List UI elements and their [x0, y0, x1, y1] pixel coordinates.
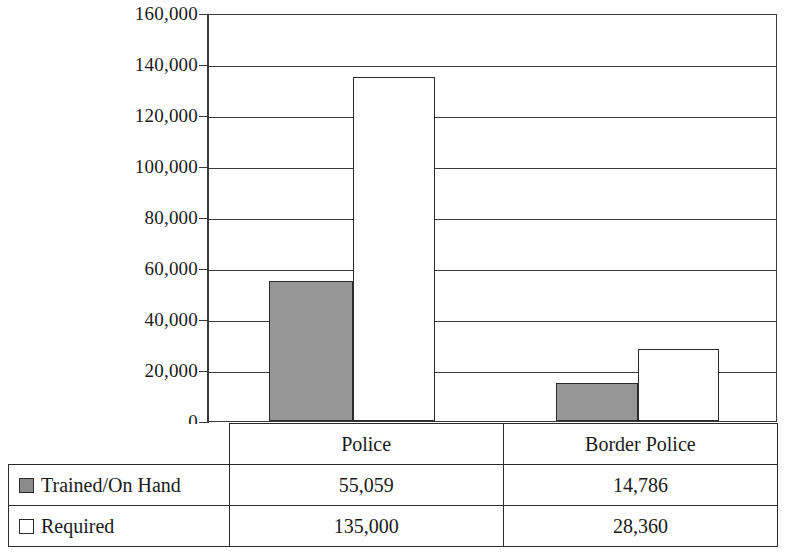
data-table: PoliceBorder PoliceTrained/On Hand55,059… — [8, 423, 778, 547]
gridline-140000 — [209, 66, 776, 67]
y-tick-label-160000: 160,000 — [78, 4, 198, 23]
y-tick-label-80000: 80,000 — [78, 208, 198, 227]
legend-label: Trained/On Hand — [41, 474, 181, 496]
bar-police-required — [353, 77, 435, 421]
y-tick-100000 — [199, 167, 208, 168]
y-tick-80000 — [199, 218, 208, 219]
legend-swatch-icon — [19, 478, 34, 493]
legend-entry-trained: Trained/On Hand — [9, 465, 230, 506]
table-corner-cell — [9, 424, 230, 465]
legend-entry-required: Required — [9, 506, 230, 547]
y-tick-140000 — [199, 65, 208, 66]
y-tick-label-60000: 60,000 — [78, 259, 198, 278]
category-header-police: Police — [229, 424, 503, 465]
y-tick-label-140000: 140,000 — [78, 55, 198, 74]
table-header-row: PoliceBorder Police — [9, 424, 778, 465]
gridline-100000 — [209, 168, 776, 169]
table-body: PoliceBorder PoliceTrained/On Hand55,059… — [9, 424, 778, 547]
legend-label: Required — [41, 515, 114, 537]
y-tick-label-120000: 120,000 — [78, 106, 198, 125]
bar-border-police-trained — [556, 383, 638, 421]
y-tick-20000 — [199, 371, 208, 372]
table-row: Trained/On Hand55,05914,786 — [9, 465, 778, 506]
y-tick-label-20000: 20,000 — [78, 361, 198, 380]
y-tick-label-100000: 100,000 — [78, 157, 198, 176]
y-tick-40000 — [199, 320, 208, 321]
y-tick-60000 — [199, 269, 208, 270]
bar-chart-figure: 020,00040,00060,00080,000100,000120,0001… — [0, 0, 791, 560]
table-row: Required135,00028,360 — [9, 506, 778, 547]
plot-area — [208, 14, 777, 422]
bar-border-police-required — [638, 349, 719, 421]
y-tick-160000 — [199, 14, 208, 15]
y-tick-label-40000: 40,000 — [78, 310, 198, 329]
table-cell-value: 14,786 — [503, 465, 777, 506]
gridline-80000 — [209, 219, 776, 220]
table-cell-value: 135,000 — [229, 506, 503, 547]
gridline-120000 — [209, 117, 776, 118]
y-tick-120000 — [199, 116, 208, 117]
legend-swatch-icon — [19, 519, 34, 534]
table-cell-value: 28,360 — [503, 506, 777, 547]
gridline-60000 — [209, 270, 776, 271]
category-header-border-police: Border Police — [503, 424, 777, 465]
table-cell-value: 55,059 — [229, 465, 503, 506]
bar-police-trained — [269, 281, 353, 421]
